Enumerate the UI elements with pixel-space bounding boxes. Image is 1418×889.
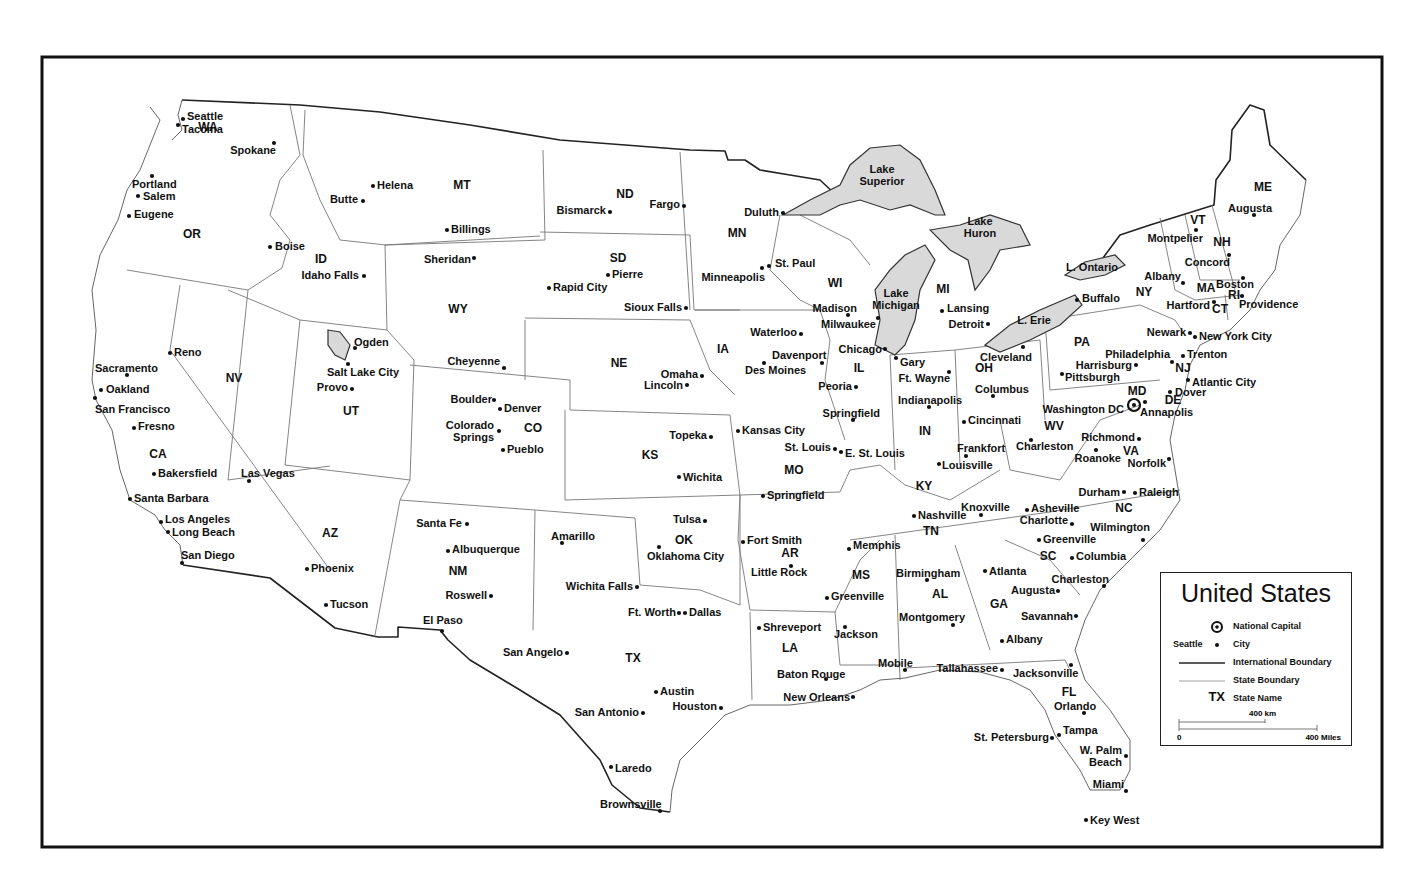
city-label: St. Louis [785, 441, 831, 453]
city-marker: Richmond [1081, 431, 1141, 443]
city-marker: Helena [371, 179, 414, 191]
city-marker: Oakland [99, 383, 150, 395]
city-label: Billings [451, 223, 491, 235]
city-marker: Norfolk [1128, 457, 1172, 469]
city-dot-icon [445, 228, 449, 232]
city-marker: Denver [498, 402, 542, 414]
city-label: Trenton [1187, 348, 1228, 360]
city-dot-icon [677, 611, 681, 615]
city-marker: Kansas City [736, 424, 806, 436]
city-label: Los Angeles [165, 513, 230, 525]
city-dot-icon [1075, 298, 1079, 302]
city-label: Louisville [942, 459, 993, 471]
city-marker: Milwaukee [821, 316, 880, 330]
city-dot-icon [1057, 733, 1061, 737]
city-marker: St. Petersburg [974, 731, 1054, 743]
state-label-nd: ND [616, 187, 634, 201]
city-marker: Ft. Worth [628, 606, 681, 618]
city-label: Cincinnati [968, 414, 1021, 426]
scale-bar [1177, 719, 1337, 733]
city-marker: Des Moines [745, 361, 806, 376]
city-dot-icon [132, 426, 136, 430]
city-label: Springfield [823, 407, 880, 419]
city-label: Key West [1090, 814, 1140, 826]
city-label: Mobile [878, 657, 913, 669]
city-label: Chicago [839, 343, 883, 355]
city-marker: Atlanta [983, 565, 1027, 577]
city-marker: Phoenix [305, 562, 355, 574]
city-dot-icon [446, 549, 450, 553]
city-label: Oakland [106, 383, 149, 395]
city-label: Rapid City [553, 281, 608, 293]
state-label-wv: WV [1044, 419, 1063, 433]
city-dot-icon [979, 513, 983, 517]
city-marker: Memphis [847, 539, 901, 551]
legend: United States National Capital Seattle C… [1160, 572, 1352, 746]
city-label: Kansas City [742, 424, 806, 436]
city-label: Fresno [138, 420, 175, 432]
city-dot-icon [825, 596, 829, 600]
city-marker: Cincinnati [962, 414, 1021, 426]
city-label: Boise [275, 240, 305, 252]
city-dot-icon [635, 585, 639, 589]
state-label-md: MD [1128, 384, 1147, 398]
scale-km-label: 400 km [1249, 709, 1276, 718]
state-boundary-icon [1169, 673, 1225, 689]
city-label: Laredo [615, 762, 652, 774]
city-dot-icon [350, 387, 354, 391]
city-dot-icon [683, 611, 687, 615]
city-label: Albuquerque [452, 543, 520, 555]
legend-row-intl: International Boundary [1161, 655, 1351, 671]
state-label-ne: NE [611, 356, 628, 370]
city-dot-icon [703, 519, 707, 523]
city-dot-icon [641, 711, 645, 715]
state-label-mi: MI [936, 282, 949, 296]
city-marker: Durham [1078, 486, 1126, 498]
city-label: Oklahoma City [647, 550, 725, 562]
state-label-id: ID [315, 252, 327, 266]
city-dot-icon [854, 385, 858, 389]
city-dot-icon [371, 184, 375, 188]
legend-row-state-boundary: State Boundary [1161, 673, 1351, 689]
city-marker: Asheville [1025, 502, 1079, 514]
city-marker: Ft. Wayne [898, 370, 951, 384]
city-marker: Waterloo [750, 326, 803, 338]
city-label: Dallas [689, 606, 721, 618]
city-dot-icon [1124, 754, 1128, 758]
state-label-az: AZ [322, 526, 338, 540]
city-label: Des Moines [745, 364, 806, 376]
city-label: Ft. Wayne [898, 372, 950, 384]
city-marker: Jackson [834, 625, 878, 640]
state-label-tn: TN [923, 524, 939, 538]
city-dot-icon [152, 472, 156, 476]
state-label-ct: CT [1212, 302, 1229, 316]
city-label: Buffalo [1082, 292, 1120, 304]
state-label-wy: WY [448, 302, 467, 316]
city-label: Seattle [187, 110, 223, 122]
city-dot-icon [1070, 556, 1074, 560]
city-dot-icon [1060, 372, 1064, 376]
city-label: Wichita Falls [566, 580, 633, 592]
city-marker: Hartford [1167, 299, 1216, 311]
city-label: Concord [1185, 256, 1230, 268]
city-label: Minneapolis [701, 271, 765, 283]
city-dot-icon [761, 494, 765, 498]
city-marker: Shreveport [757, 621, 822, 633]
city-label: Portland [132, 178, 177, 190]
city-marker: ColoradoSprings [446, 419, 501, 443]
city-marker: Houston [672, 700, 723, 712]
city-marker: Bakersfield [152, 467, 217, 479]
city-label: Memphis [853, 539, 901, 551]
city-marker: Lansing [940, 302, 989, 314]
city-label: Frankfort [957, 442, 1006, 454]
city-dot-icon [1188, 331, 1192, 335]
city-dot-icon [1134, 363, 1138, 367]
city-marker: Boston [1216, 276, 1254, 290]
city-dot-icon [547, 286, 551, 290]
state-label-ms: MS [852, 568, 870, 582]
state-label-nv: NV [226, 371, 243, 385]
city-label: Milwaukee [821, 318, 876, 330]
city-marker: San Antonio [575, 706, 645, 718]
city-dot-icon [736, 429, 740, 433]
state-label-ny: NY [1136, 285, 1153, 299]
